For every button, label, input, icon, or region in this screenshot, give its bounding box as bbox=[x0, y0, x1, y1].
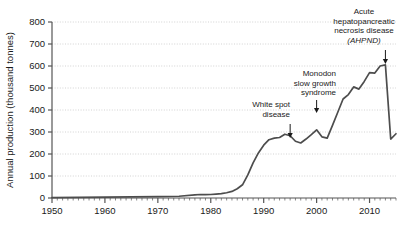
chart-container: 0100200300400500600700800 19501960197019… bbox=[0, 0, 412, 229]
y-tick-label: 500 bbox=[29, 82, 45, 93]
x-tick-label: 1970 bbox=[147, 205, 168, 216]
y-tick-label: 600 bbox=[29, 60, 45, 71]
production-line-chart: 0100200300400500600700800 19501960197019… bbox=[0, 0, 412, 229]
x-tick-label: 1990 bbox=[253, 205, 274, 216]
y-axis-title: Annual production (thousand tonnes) bbox=[4, 32, 15, 188]
y-tick-label: 200 bbox=[29, 148, 45, 159]
y-tick-label: 700 bbox=[29, 38, 45, 49]
y-tick-label: 800 bbox=[29, 16, 45, 27]
y-tick-label: 0 bbox=[40, 192, 45, 203]
x-tick-label: 1980 bbox=[200, 205, 221, 216]
y-tick-label: 300 bbox=[29, 126, 45, 137]
y-tick-label: 400 bbox=[29, 104, 45, 115]
x-tick-label: 2000 bbox=[306, 205, 327, 216]
x-tick-label: 1960 bbox=[94, 205, 115, 216]
y-tick-label: 100 bbox=[29, 170, 45, 181]
x-tick-label: 1950 bbox=[41, 205, 62, 216]
y-axis-tick-labels: 0100200300400500600700800 bbox=[29, 16, 45, 203]
x-tick-label: 2010 bbox=[359, 205, 380, 216]
